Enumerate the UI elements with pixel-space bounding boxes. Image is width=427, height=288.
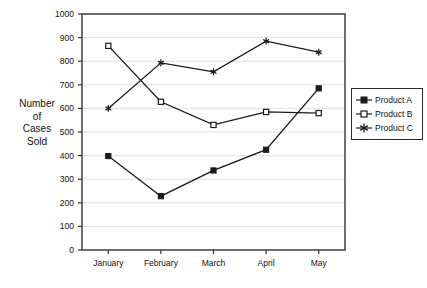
legend: Product A Product B — [351, 88, 423, 140]
data-point-product-b-january — [106, 43, 111, 48]
y-axis-tick-label: 800 — [34, 56, 74, 66]
x-axis-tick-label-april: April — [258, 258, 275, 268]
legend-label-product-c: Product C — [375, 123, 413, 133]
star-marker-icon — [356, 122, 372, 134]
legend-item-product-b: Product B — [356, 107, 419, 121]
line-chart: Number of Cases Sold 0100200300400500600… — [0, 0, 427, 288]
x-axis-tick-label-january: January — [93, 258, 123, 268]
x-axis-tick-label-february: February — [144, 258, 178, 268]
legend-label-product-a: Product A — [375, 95, 412, 105]
series-line-product-a — [108, 88, 318, 196]
data-point-product-a-april — [264, 147, 269, 152]
legend-item-product-c: Product C — [356, 121, 419, 135]
data-point-product-b-february — [158, 99, 163, 104]
legend-label-product-b: Product B — [375, 109, 412, 119]
y-axis-tick-label: 600 — [34, 103, 74, 113]
y-axis-tick-label: 1000 — [34, 9, 74, 19]
filled-square-marker-icon — [356, 94, 372, 106]
y-axis-tick-label: 300 — [34, 174, 74, 184]
y-axis-tick-label: 900 — [34, 33, 74, 43]
data-point-product-a-january — [106, 153, 111, 158]
data-point-product-b-april — [264, 109, 269, 114]
series-line-product-b — [108, 46, 318, 125]
y-axis-tick-label: 200 — [34, 198, 74, 208]
x-axis-tick-label-march: March — [202, 258, 226, 268]
data-point-product-a-march — [211, 168, 216, 173]
y-axis-tick-label: 0 — [34, 245, 74, 255]
legend-item-product-a: Product A — [356, 93, 419, 107]
y-axis-title-line-4: Sold — [6, 136, 68, 149]
data-point-product-b-march — [211, 122, 216, 127]
y-axis-tick-label: 700 — [34, 80, 74, 90]
open-square-marker-icon — [356, 108, 372, 120]
y-axis-tick-label: 400 — [34, 151, 74, 161]
y-axis-tick-label: 100 — [34, 221, 74, 231]
data-point-product-a-may — [316, 86, 321, 91]
y-axis-tick-label: 500 — [34, 127, 74, 137]
data-point-product-a-february — [158, 194, 163, 199]
x-axis-tick-label-may: May — [311, 258, 327, 268]
data-point-product-b-may — [316, 111, 321, 116]
